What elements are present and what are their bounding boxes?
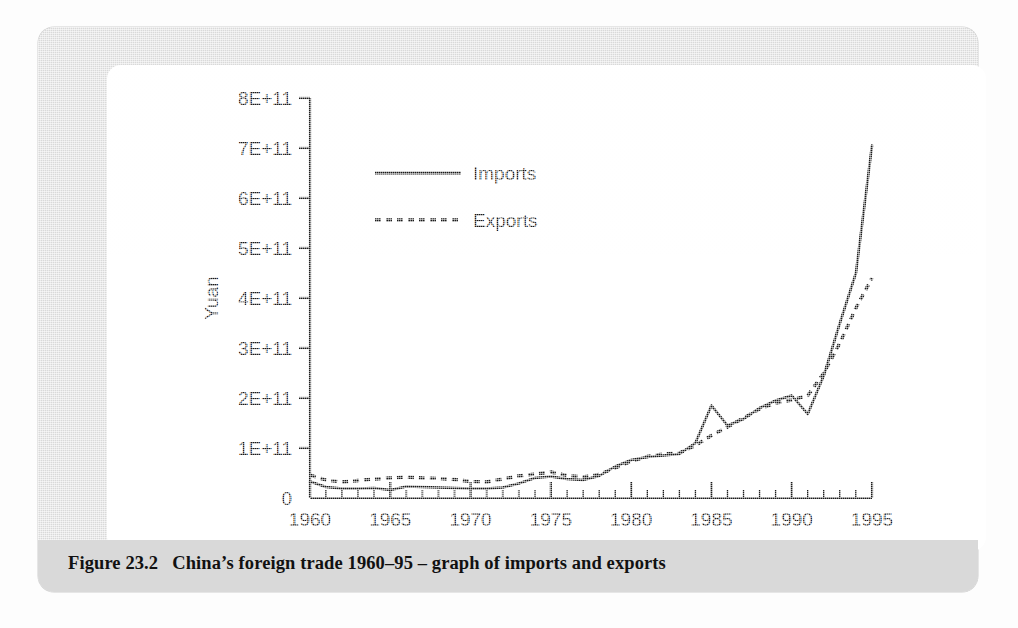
y-axis-tick-label: 1E+11 bbox=[238, 438, 292, 459]
series-line-imports bbox=[310, 146, 872, 491]
y-axis-tick-label: 5E+11 bbox=[238, 238, 292, 259]
x-axis-tick-label: 1965 bbox=[369, 509, 411, 530]
figure-caption-label: Figure 23.2 bbox=[68, 553, 158, 573]
x-axis-tick-label: 1985 bbox=[690, 509, 732, 530]
figure-panel: ImportsExports 01E+112E+113E+114E+115E+1… bbox=[38, 27, 978, 592]
y-axis-tick-label: 8E+11 bbox=[238, 88, 292, 109]
x-axis-tick-label: 1975 bbox=[530, 509, 572, 530]
series-layer bbox=[310, 146, 872, 491]
x-axis-tick-label: 1995 bbox=[851, 509, 893, 530]
x-axis-tick-label: 1970 bbox=[449, 509, 491, 530]
figure-container: ImportsExports 01E+112E+113E+114E+115E+1… bbox=[0, 0, 1018, 628]
x-axis-tick-label: 1980 bbox=[610, 509, 652, 530]
x-axis-tick-label: 1990 bbox=[771, 509, 813, 530]
axes-layer bbox=[299, 98, 872, 498]
chart-canvas: ImportsExports 01E+112E+113E+114E+115E+1… bbox=[107, 65, 986, 551]
figure-caption: Figure 23.2China’s foreign trade 1960–95… bbox=[68, 553, 666, 574]
y-axis-tick-label: 3E+11 bbox=[238, 338, 292, 359]
y-axis-tick-label: 2E+11 bbox=[238, 388, 292, 409]
y-axis-tick-label: 6E+11 bbox=[238, 188, 292, 209]
legend-label-exports: Exports bbox=[473, 210, 537, 231]
figure-caption-body: China’s foreign trade 1960–95 – graph of… bbox=[172, 553, 666, 573]
legend-layer: ImportsExports bbox=[375, 163, 537, 231]
series-line-exports bbox=[310, 278, 872, 482]
y-axis-tick-label: 7E+11 bbox=[238, 138, 292, 159]
legend-label-imports: Imports bbox=[473, 163, 536, 184]
x-axis-tick-label: 1960 bbox=[289, 509, 331, 530]
labels-layer: 01E+112E+113E+114E+115E+116E+117E+118E+1… bbox=[201, 88, 893, 551]
y-axis-tick-label: 4E+11 bbox=[238, 288, 292, 309]
y-axis-title: Yuan bbox=[201, 276, 222, 319]
y-axis-tick-label: 0 bbox=[281, 488, 292, 509]
trade-line-chart: ImportsExports 01E+112E+113E+114E+115E+1… bbox=[107, 65, 986, 551]
